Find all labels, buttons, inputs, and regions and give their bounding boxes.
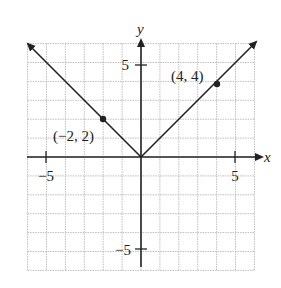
x-axis-label: x	[263, 149, 271, 165]
x-tick-label-pos5: 5	[231, 168, 239, 184]
graph-absolute-value: −5 5 5 −5 x y (−2, 2) (4, 4)	[0, 0, 281, 288]
point-neg2-2	[100, 116, 106, 122]
point-label-neg2-2: (−2, 2)	[53, 128, 94, 145]
point-4-4	[214, 81, 220, 87]
y-tick-label-neg5: −5	[115, 242, 131, 258]
y-tick-label-pos5: 5	[122, 57, 130, 73]
x-tick-label-neg5: −5	[38, 168, 54, 184]
right-branch	[141, 42, 256, 157]
y-axis-label: y	[135, 21, 144, 37]
point-label-4-4: (4, 4)	[171, 68, 204, 85]
